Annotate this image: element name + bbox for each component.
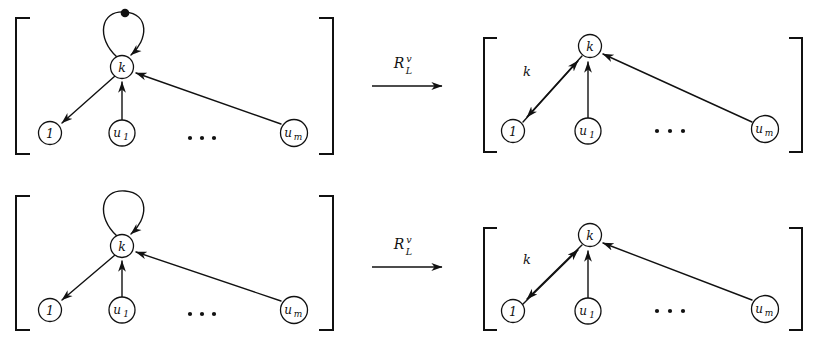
node-one: 1 [502,300,525,323]
node-one: 1 [39,122,62,145]
operator-superscript: v [406,53,412,64]
node-um-base: u [284,303,292,317]
node-k: k [111,235,134,258]
node-u1: u 1 [109,297,135,323]
ellipsis [655,309,685,313]
node-um: u m [752,296,779,323]
node-k-label: k [586,39,594,54]
self-loop-dot [121,9,130,18]
bracket-left-open [16,196,30,330]
node-u1-sub: 1 [123,132,129,142]
ellipsis [655,129,685,133]
edge-k-label: k [523,252,531,267]
bracket-left-open [16,18,30,154]
self-loop-edge [103,191,143,236]
node-u1-base: u [579,304,587,318]
node-u1-base: u [113,126,121,140]
rewrite-operator-top: R v L [372,53,442,86]
node-um-sub: m [294,309,303,319]
edge-k-label: k [523,64,531,79]
ellipsis [188,136,216,140]
node-one: 1 [39,299,62,322]
bracket-right-open [484,38,497,152]
edge-k-to-1-labeled [527,245,582,299]
rule-bottom: k 1 u 1 u m [16,191,802,330]
node-one: 1 [502,120,525,143]
node-one-label: 1 [509,304,517,319]
node-um-base: u [755,122,763,136]
node-k-label: k [118,60,126,75]
node-um-base: u [284,126,292,140]
bracket-left-close [319,18,333,154]
node-u1-sub: 1 [589,130,595,140]
node-um-sub: m [294,132,303,142]
operator-subscript: L [405,246,412,257]
node-k: k [579,224,602,247]
edge-um-to-k [136,252,281,301]
node-one-label: 1 [509,124,517,139]
node-k: k [111,56,134,79]
rewrite-operator-bottom: R v L [372,234,442,267]
edge-k-to-1 [62,255,115,300]
node-k-label: k [586,228,594,243]
node-um: u m [752,116,779,143]
edge-1-to-k [523,61,578,122]
node-u1: u 1 [575,118,601,144]
node-one-label: 1 [46,126,54,141]
operator-superscript: v [406,234,412,245]
edge-k-to-1 [62,76,115,123]
edge-um-to-k [603,54,752,122]
node-um: u m [281,297,308,324]
node-u1-sub: 1 [589,310,595,320]
node-u1-base: u [579,124,587,138]
lhs-top: k 1 u 1 u m [16,9,333,154]
bracket-right-open [484,228,497,330]
node-one-label: 1 [46,303,54,318]
rhs-bottom: k k 1 u 1 [484,224,802,331]
edge-um-to-k [603,243,752,300]
bracket-left-close [319,196,333,330]
node-u1-base: u [113,303,121,317]
node-u1: u 1 [575,298,601,324]
rewriting-rules-figure: k 1 u 1 u m [0,0,818,345]
node-um-base: u [755,302,763,316]
node-um: u m [281,120,308,147]
operator-base: R [393,55,405,71]
node-k: k [579,35,602,58]
operator-base: R [393,236,405,252]
self-loop-edge [103,12,143,57]
rule-top: k 1 u 1 u m [16,9,802,154]
ellipsis [188,312,216,316]
lhs-bottom: k 1 u 1 u m [16,191,333,330]
bracket-right-close [789,38,802,152]
edge-um-to-k [136,73,281,124]
bracket-right-close [789,228,802,330]
rhs-top: k k 1 u 1 [484,35,802,153]
node-k-label: k [118,239,126,254]
node-u1-sub: 1 [123,309,129,319]
node-um-sub: m [765,308,774,318]
node-u1: u 1 [109,120,135,146]
edge-1-to-k [523,250,578,304]
operator-subscript: L [405,65,412,76]
node-um-sub: m [765,128,774,138]
